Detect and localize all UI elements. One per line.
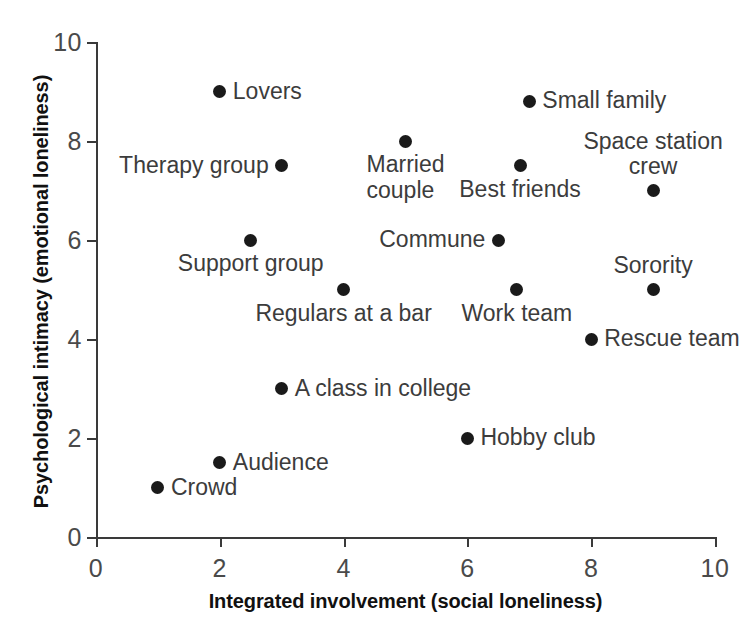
data-point — [461, 432, 474, 445]
data-point — [275, 382, 288, 395]
data-point-label: Commune — [379, 227, 485, 253]
data-point — [151, 481, 164, 494]
data-point — [514, 159, 527, 172]
data-point — [213, 456, 226, 469]
data-point — [647, 283, 660, 296]
y-tick-label: 2 — [68, 424, 82, 453]
data-point-label: Rescue team — [604, 326, 740, 352]
y-axis-line — [96, 42, 98, 539]
data-point — [585, 333, 598, 346]
data-point — [213, 85, 226, 98]
data-point — [244, 234, 257, 247]
data-point — [399, 135, 412, 148]
x-tick-mark — [96, 537, 98, 547]
data-point-label: Regulars at a bar — [255, 301, 431, 327]
data-point — [647, 184, 660, 197]
y-tick-mark — [87, 537, 96, 539]
y-tick-label: 8 — [68, 127, 82, 156]
y-tick-mark — [87, 240, 96, 242]
x-axis-line — [96, 537, 716, 539]
x-tick-label: 2 — [213, 554, 227, 583]
data-point-label: Audience — [233, 450, 329, 476]
y-tick-mark — [87, 42, 96, 44]
x-tick-label: 10 — [701, 554, 730, 583]
data-point-label: Small family — [542, 89, 666, 115]
x-tick-mark — [344, 537, 346, 547]
x-tick-mark — [715, 537, 717, 547]
y-axis-title: Psychological intimacy (emotional loneli… — [30, 32, 53, 552]
y-tick-mark — [87, 438, 96, 440]
data-point-label: Sorority — [613, 253, 692, 279]
data-point — [492, 234, 505, 247]
x-tick-mark — [467, 537, 469, 547]
x-tick-label: 6 — [460, 554, 474, 583]
data-point — [337, 283, 350, 296]
y-tick-label: 4 — [68, 325, 82, 354]
data-point-label: Married couple — [367, 152, 445, 204]
y-tick-mark — [87, 339, 96, 341]
data-point-label: Lovers — [233, 79, 302, 105]
data-point — [523, 95, 536, 108]
data-point-label: Work team — [462, 301, 573, 327]
cropped-caption-strip — [0, 626, 755, 642]
data-point-label: Crowd — [171, 475, 237, 501]
x-axis-title: Integrated involvement (social lonelines… — [96, 590, 715, 613]
x-tick-mark — [220, 537, 222, 547]
data-point-label: Best friends — [459, 177, 580, 203]
data-point-label: A class in college — [295, 376, 471, 402]
data-point-label: Space station crew — [583, 128, 722, 180]
x-tick-label: 8 — [584, 554, 598, 583]
scatter-plot-figure: Psychological intimacy (emotional loneli… — [0, 0, 755, 642]
data-point-label: Hobby club — [480, 425, 595, 451]
y-tick-label: 0 — [68, 523, 82, 552]
x-tick-label: 4 — [336, 554, 350, 583]
data-point — [275, 159, 288, 172]
data-point-label: Therapy group — [119, 153, 269, 179]
data-point-label: Support group — [178, 251, 324, 277]
y-tick-mark — [87, 141, 96, 143]
y-tick-label: 10 — [53, 28, 82, 57]
plot-area: 0246810 0246810 LoversSmall familyMarrie… — [96, 42, 715, 538]
x-tick-label: 0 — [89, 554, 103, 583]
data-point — [510, 283, 523, 296]
y-tick-label: 6 — [68, 226, 82, 255]
x-tick-mark — [591, 537, 593, 547]
